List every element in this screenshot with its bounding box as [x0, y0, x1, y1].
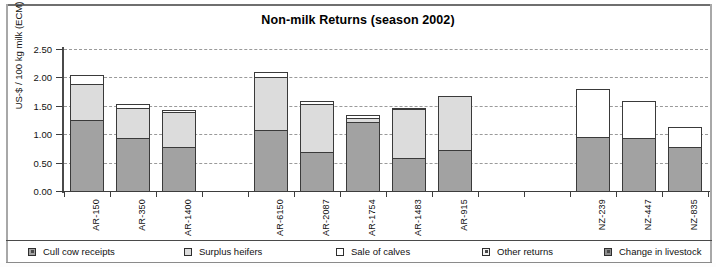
- bar-segment-cull-cow-receipts: [392, 158, 425, 191]
- bar-AR-1400[interactable]: [162, 49, 195, 191]
- x-axis-tick-label: AR-350: [137, 199, 147, 231]
- y-axis-tick-label: 2.50: [18, 44, 52, 55]
- chart-figure: Non-milk Returns (season 2002) US-$ / 10…: [0, 0, 716, 267]
- bar-AR-1483[interactable]: [392, 49, 425, 191]
- y-axis-tick-label: 1.50: [18, 100, 52, 111]
- grid-line: [64, 134, 708, 135]
- y-axis-title: US-$ / 100 kg milk (ECM): [13, 0, 24, 136]
- x-axis-tick-mark: [248, 191, 249, 197]
- bar-segment-surplus-heifers: [70, 84, 103, 120]
- bar-AR-2087[interactable]: [300, 49, 333, 191]
- bar-segment-surplus-heifers: [116, 108, 149, 138]
- legend-item-other-returns[interactable]: Other returns: [482, 246, 553, 257]
- bar-segment-cull-cow-receipts: [622, 138, 655, 191]
- legend-swatch-icon: [28, 248, 36, 256]
- chart-legend: Cull cow receiptsSurplus heifersSale of …: [6, 241, 712, 262]
- x-axis-tick-mark: [524, 191, 525, 197]
- legend-item-surplus-heifers[interactable]: Surplus heifers: [184, 246, 262, 257]
- bar-AR-6150[interactable]: [254, 49, 287, 191]
- x-axis-tick-label: AR-1400: [183, 199, 193, 236]
- legend-swatch-icon: [482, 248, 490, 256]
- bar-AR-915[interactable]: [438, 49, 471, 191]
- legend-item-label: Sale of calves: [351, 246, 410, 257]
- legend-item-change-in-livestock[interactable]: Change in livestock: [604, 246, 701, 257]
- plot-area: [64, 49, 708, 191]
- x-axis-tick-mark: [294, 191, 295, 197]
- bar-segment-sale-of-calves: [116, 104, 149, 107]
- bar-NZ-447[interactable]: [622, 49, 655, 191]
- bar-AR-350[interactable]: [116, 49, 149, 191]
- y-axis-tick-mark: [56, 77, 63, 78]
- x-axis-tick-label: AR-1483: [413, 199, 423, 236]
- bar-AR-1754[interactable]: [346, 49, 379, 191]
- x-axis-tick-mark: [478, 191, 479, 197]
- x-axis-tick-label: NZ-239: [597, 199, 607, 230]
- x-axis-tick-mark: [386, 191, 387, 197]
- x-axis-tick-label: NZ-447: [643, 199, 653, 230]
- legend-item-label: Change in livestock: [619, 246, 701, 257]
- x-axis-tick-label: AR-150: [91, 199, 101, 231]
- legend-swatch-icon: [604, 248, 612, 256]
- grid-line: [64, 163, 708, 164]
- grid-line: [64, 77, 708, 78]
- bar-segment-cull-cow-receipts: [346, 122, 379, 191]
- x-axis-tick-label: NZ-835: [689, 199, 699, 230]
- x-axis-tick-label: AR-6150: [275, 199, 285, 236]
- bar-segment-cull-cow-receipts: [300, 152, 333, 191]
- x-axis-tick-mark: [340, 191, 341, 197]
- bar-AR-150[interactable]: [70, 49, 103, 191]
- bar-segment-cull-cow-receipts: [116, 138, 149, 191]
- x-axis-tick-mark: [662, 191, 663, 197]
- bar-segment-sale-of-calves: [300, 101, 333, 104]
- legend-item-cull-cow-receipts[interactable]: Cull cow receipts: [28, 246, 115, 257]
- bar-segment-cull-cow-receipts: [668, 147, 701, 191]
- x-axis-tick-mark: [64, 191, 65, 197]
- x-axis-tick-mark: [110, 191, 111, 197]
- bar-segment-sale-of-calves: [254, 72, 287, 77]
- bar-segment-cull-cow-receipts: [438, 150, 471, 191]
- y-axis-tick-mark: [56, 134, 63, 135]
- x-axis-tick-mark: [202, 191, 203, 197]
- x-axis-tick-label: AR-915: [459, 199, 469, 231]
- figure-border-left: [6, 4, 8, 263]
- bar-segment-surplus-heifers: [346, 118, 379, 123]
- x-axis-tick-label: AR-1754: [367, 199, 377, 236]
- bar-segment-sale-of-calves: [70, 75, 103, 84]
- y-axis-tick-mark: [56, 106, 63, 107]
- y-axis-tick-label: 2.00: [18, 72, 52, 83]
- y-axis-tick-mark: [56, 49, 63, 50]
- x-axis-tick-label: AR-2087: [321, 199, 331, 236]
- bar-segment-surplus-heifers: [438, 96, 471, 150]
- bar-NZ-239[interactable]: [576, 49, 609, 191]
- grid-line: [64, 49, 708, 50]
- y-axis-tick-label: 0.50: [18, 157, 52, 168]
- bar-segment-surplus-heifers: [300, 104, 333, 152]
- chart-title: Non-milk Returns (season 2002): [0, 13, 716, 27]
- bar-segment-sale-of-calves: [622, 101, 655, 138]
- bar-segment-cull-cow-receipts: [70, 120, 103, 191]
- legend-item-label: Cull cow receipts: [43, 246, 115, 257]
- x-axis-tick-mark: [432, 191, 433, 197]
- grid-line: [64, 106, 708, 107]
- x-axis-tick-mark: [156, 191, 157, 197]
- y-axis-tick-mark: [56, 163, 63, 164]
- y-axis-tick-label: 0.00: [18, 186, 52, 197]
- y-axis-tick-mark: [56, 191, 63, 192]
- legend-swatch-icon: [184, 248, 192, 256]
- scan-edge: [0, 263, 716, 267]
- y-axis-tick-label: 1.00: [18, 129, 52, 140]
- legend-item-label: Surplus heifers: [199, 246, 262, 257]
- figure-border-right: [710, 4, 712, 263]
- legend-item-label: Other returns: [497, 246, 553, 257]
- bar-segment-sale-of-calves: [346, 115, 379, 117]
- legend-item-sale-of-calves[interactable]: Sale of calves: [336, 246, 410, 257]
- x-axis-tick-mark: [616, 191, 617, 197]
- bar-segment-sale-of-calves: [392, 108, 425, 109]
- figure-border-top: [6, 4, 712, 6]
- legend-swatch-icon: [336, 248, 344, 256]
- bar-segment-surplus-heifers: [254, 77, 287, 130]
- bar-NZ-835[interactable]: [668, 49, 701, 191]
- bar-segment-surplus-heifers: [162, 112, 195, 147]
- bar-segment-cull-cow-receipts: [162, 147, 195, 191]
- bar-segment-cull-cow-receipts: [576, 137, 609, 191]
